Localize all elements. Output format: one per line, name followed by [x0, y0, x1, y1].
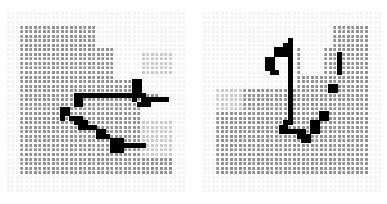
panel-right-occupancy-grid[interactable]: [202, 11, 382, 193]
panel-left-occupancy-grid[interactable]: [6, 11, 186, 193]
right-grid-canvas[interactable]: [202, 11, 382, 193]
figure-container: [0, 0, 387, 204]
left-grid-canvas[interactable]: [6, 11, 186, 193]
